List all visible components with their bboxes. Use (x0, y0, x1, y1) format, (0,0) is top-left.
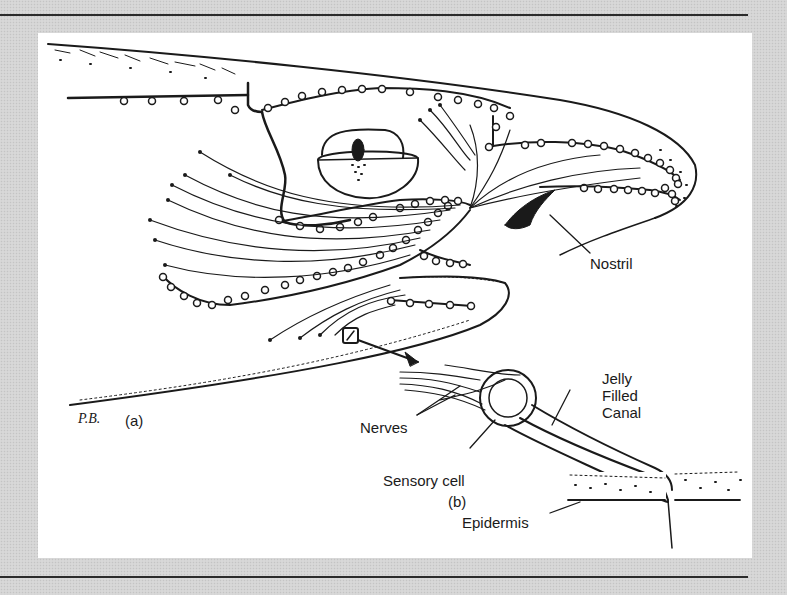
head-outline (48, 44, 696, 255)
jelly-label-line2: Filled (602, 387, 638, 404)
ampullae-pores (148, 103, 442, 342)
artist-signature: P.B. (78, 410, 100, 427)
hyomandibular-canal (262, 112, 350, 225)
eye (318, 129, 418, 198)
jelly-label-line1: Jelly (602, 370, 632, 387)
nostril-label: Nostril (590, 255, 633, 272)
subfigure-b-label: (b) (448, 493, 466, 510)
shark-head-lateral-line-illustration (0, 0, 787, 595)
epidermis-label: Epidermis (462, 514, 529, 531)
nerves-label: Nerves (360, 419, 408, 436)
ampulla-detail (400, 365, 741, 548)
sensory-cell-label: Sensory cell (383, 472, 465, 489)
subfigure-a-label: (a) (125, 412, 143, 429)
nostril-leader (550, 215, 590, 253)
lateral-line (68, 83, 682, 205)
nostril-shape (505, 190, 555, 229)
jelly-label-line3: Canal (602, 404, 641, 421)
bottom-rule (0, 576, 748, 578)
